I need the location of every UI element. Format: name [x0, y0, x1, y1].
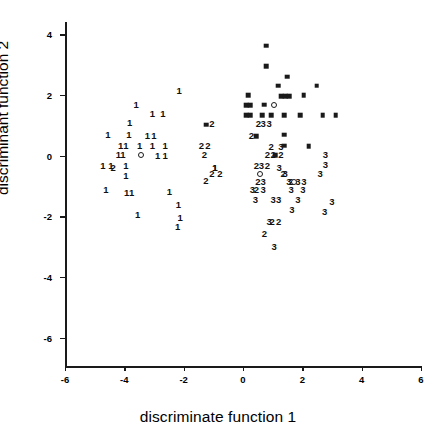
data-point-square — [314, 83, 319, 88]
y-tick-mark: 4 — [60, 34, 65, 35]
data-point-label-1: 1 — [177, 86, 182, 96]
data-point-label-3: 3 — [276, 195, 281, 205]
data-point-square — [264, 43, 269, 48]
data-point-label-1: 1 — [126, 130, 131, 140]
data-point-label-3: 3 — [288, 186, 293, 196]
x-tick-mark — [302, 366, 303, 371]
data-point-square — [269, 113, 274, 118]
x-tick-mark — [362, 366, 363, 371]
data-point-square — [282, 133, 287, 138]
data-point-square — [254, 134, 259, 139]
data-point-label-3: 3 — [295, 195, 300, 205]
data-point-label-2: 2 — [209, 119, 214, 129]
data-point-square — [276, 83, 281, 88]
data-point-label-3: 3 — [266, 119, 271, 129]
y-tick-label: 4 — [47, 29, 52, 40]
data-point-square — [282, 113, 287, 118]
x-tick-mark — [184, 366, 185, 371]
data-point-label-1: 1 — [176, 200, 181, 210]
y-tick-mark: -6 — [60, 338, 65, 339]
data-point-label-3: 3 — [323, 160, 328, 170]
data-point-label-3: 3 — [322, 207, 327, 217]
data-point-label-1: 1 — [145, 131, 150, 141]
x-tick-mark — [124, 366, 125, 371]
data-point-label-1: 1 — [103, 186, 108, 196]
x-tick-mark — [421, 366, 422, 371]
data-point-label-3: 3 — [300, 186, 305, 196]
data-point-square — [262, 103, 267, 108]
y-tick-label: -6 — [44, 332, 52, 343]
x-tick-label: 4 — [359, 374, 364, 385]
data-point-label-1: 1 — [100, 161, 105, 171]
data-point-label-1: 1 — [150, 110, 155, 120]
data-point-square — [285, 74, 290, 79]
x-axis-title: discriminate function 1 — [0, 408, 436, 426]
data-point-label-1: 1 — [167, 187, 172, 197]
data-point-label-1: 1 — [155, 151, 160, 161]
x-tick-mark — [243, 366, 244, 371]
data-point-label-2: 2 — [209, 170, 214, 180]
group-centroid-marker — [138, 152, 144, 158]
data-point-square — [260, 113, 265, 118]
y-tick-label: 0 — [47, 150, 52, 161]
data-point-square — [307, 144, 312, 149]
data-point-label-3: 3 — [271, 242, 276, 252]
x-tick-mark — [65, 366, 66, 371]
data-point-label-1: 1 — [160, 110, 165, 120]
data-point-label-3: 3 — [317, 170, 322, 180]
group-centroid-marker — [257, 171, 263, 177]
data-point-label-1: 1 — [127, 118, 132, 128]
data-point-label-1: 1 — [120, 150, 125, 160]
data-point-square — [248, 103, 253, 108]
data-point-label-3: 3 — [261, 119, 266, 129]
y-axis-line — [65, 22, 67, 368]
data-point-label-3: 3 — [289, 205, 294, 215]
data-point-square — [287, 94, 292, 99]
plot-area: 420-2-4-6 -6-4-20246 1111111111111111111… — [65, 22, 421, 368]
y-tick-mark: 0 — [60, 156, 65, 157]
group-centroid-marker — [271, 102, 277, 108]
x-tick-label: -4 — [120, 374, 128, 385]
data-point-square — [282, 143, 287, 148]
x-tick-label: -2 — [179, 374, 187, 385]
x-tick-label: 6 — [418, 374, 423, 385]
y-tick-mark: -4 — [60, 277, 65, 278]
data-point-label-1: 1 — [105, 130, 110, 140]
data-point-label-2: 2 — [217, 170, 222, 180]
data-point-label-1: 1 — [134, 100, 139, 110]
data-point-label-2: 2 — [203, 177, 208, 187]
y-tick-mark: 2 — [60, 95, 65, 96]
y-tick-mark: -2 — [60, 216, 65, 217]
data-point-label-1: 1 — [151, 131, 156, 141]
data-point-label-3: 3 — [261, 186, 266, 196]
data-point-label-1: 1 — [137, 142, 142, 152]
data-point-square — [320, 113, 325, 118]
data-point-square — [246, 93, 251, 98]
data-point-square — [248, 113, 253, 118]
data-point-label-3: 3 — [253, 195, 258, 205]
x-tick-label: -6 — [61, 374, 69, 385]
y-tick-label: -4 — [44, 271, 52, 282]
data-point-label-3: 3 — [259, 161, 264, 171]
y-tick-label: -2 — [44, 211, 52, 222]
x-tick-label: 2 — [300, 374, 305, 385]
data-point-square — [204, 122, 209, 127]
scatter-plot-figure: discriminant function 2 discriminate fun… — [0, 0, 436, 441]
y-tick-label: 2 — [47, 89, 52, 100]
data-point-square — [273, 153, 278, 158]
data-point-label-3: 3 — [277, 163, 282, 173]
data-point-square — [264, 64, 269, 69]
data-point-square — [302, 93, 307, 98]
data-point-label-1: 1 — [123, 171, 128, 181]
data-point-square — [298, 113, 303, 118]
data-point-label-1: 1 — [163, 151, 168, 161]
data-point-label-1: 1 — [135, 210, 140, 220]
data-point-label-3: 3 — [329, 197, 334, 207]
data-point-label-2: 2 — [202, 150, 207, 160]
group-centroid-marker — [291, 179, 297, 185]
data-point-label-3: 3 — [266, 218, 271, 228]
data-point-label-2: 2 — [265, 161, 270, 171]
data-point-label-2: 2 — [265, 150, 270, 160]
data-point-label-2: 2 — [110, 164, 115, 174]
y-axis-title: discriminant function 2 — [0, 41, 12, 195]
